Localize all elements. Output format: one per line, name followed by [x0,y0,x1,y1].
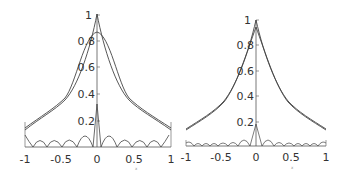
right-xtick--1: -1 [181,151,192,164]
right-xlabel: x [291,165,294,170]
right-xtick--0.5: -0.5 [210,151,231,164]
right-xtick-0.5: 0.5 [282,151,300,164]
left-ytick-0.6: 0.6 [78,61,96,74]
left-xtick-0.5: 0.5 [125,153,143,166]
left-xtick-0: 0 [94,153,101,166]
right-ytick-1: 1 [244,14,251,27]
right-ytick-0.8: 0.8 [237,39,255,52]
left-xtick-1: 1 [168,153,175,166]
left-ytick-0.8: 0.8 [78,35,96,48]
left-ytick-1: 1 [85,9,92,22]
right-xtick-0: 0 [253,151,260,164]
right-chart: 1 0.8 0.6 0.4 0.2 -1 -0.5 0 0.5 1 x [181,14,330,170]
left-xlabel: x [135,166,138,171]
left-ytick-0.2: 0.2 [78,115,96,128]
right-xtick-1: 1 [323,151,330,164]
chart-canvas: 1 0.8 0.6 0.4 0.2 -1 -0.5 0 0.5 1 x 1 0.… [0,0,344,175]
right-ytick-0.2: 0.2 [237,116,255,129]
left-ytick-0.4: 0.4 [78,88,96,101]
right-ytick-0.6: 0.6 [237,65,255,78]
left-xtick--1: -1 [20,153,31,166]
right-ytick-0.4: 0.4 [237,90,255,103]
left-chart: 1 0.8 0.6 0.4 0.2 -1 -0.5 0 0.5 1 x [20,9,175,171]
left-xtick--0.5: -0.5 [50,153,71,166]
